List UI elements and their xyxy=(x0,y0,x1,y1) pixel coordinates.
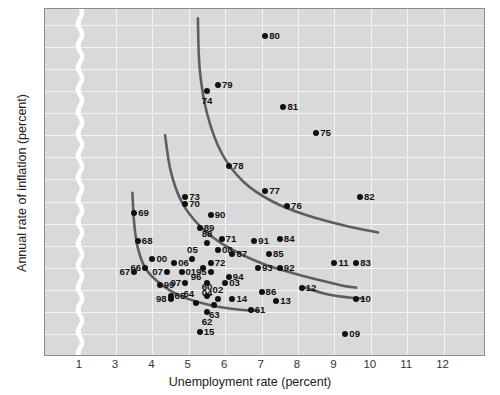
data-point-label: 79 xyxy=(222,80,233,90)
data-point-label: 88 xyxy=(202,230,213,240)
data-point xyxy=(208,260,214,266)
data-point-label: 83 xyxy=(360,258,371,268)
data-point xyxy=(262,188,268,194)
data-point-label: 02 xyxy=(213,285,224,295)
data-point-label: 85 xyxy=(273,249,284,259)
data-point xyxy=(208,212,214,218)
data-point xyxy=(357,194,363,200)
data-point-label: 76 xyxy=(291,201,302,211)
x-tick-label: 6 xyxy=(204,359,244,371)
x-tick-label: 12 xyxy=(423,359,463,371)
data-point-label: 03 xyxy=(229,278,240,288)
data-point-label: 14 xyxy=(236,294,247,304)
data-point xyxy=(219,236,225,242)
data-point-label: 09 xyxy=(349,329,360,339)
data-point xyxy=(215,296,221,302)
y-axis-title: Annual rate of inflation (percent) xyxy=(15,13,29,353)
data-point-label: 87 xyxy=(236,249,247,259)
data-point xyxy=(204,309,210,315)
data-point xyxy=(299,285,305,291)
data-point-label: 11 xyxy=(338,258,348,268)
data-point-label: 70 xyxy=(189,199,200,209)
x-tick-label: 8 xyxy=(277,359,317,371)
x-tick-label: 3 xyxy=(95,359,135,371)
data-point-label: 97 xyxy=(170,278,181,288)
data-point-label: 00 xyxy=(156,254,167,264)
data-point-label: 82 xyxy=(364,192,375,202)
data-point-label: 68 xyxy=(142,236,153,246)
plot-area: 8079748175787782767370699089687191848808… xyxy=(44,8,485,356)
x-tick-label: 7 xyxy=(241,359,281,371)
data-point-label: 95 xyxy=(196,267,207,277)
data-point xyxy=(284,203,290,209)
data-point-label: 67 xyxy=(120,267,131,277)
data-point-label: 93 xyxy=(262,263,273,273)
data-point-label: 64 xyxy=(183,289,194,299)
curve-phillips-curve-1970s xyxy=(198,18,378,232)
data-point xyxy=(255,265,261,271)
x-tick-label: 11 xyxy=(386,359,426,371)
data-point-label: 61 xyxy=(255,305,266,315)
data-point xyxy=(197,329,203,335)
data-point-label: 05 xyxy=(187,245,198,255)
data-point-label: 77 xyxy=(269,186,280,196)
data-point-label: 60 xyxy=(202,283,213,293)
chart-root: 8079748175787782767370699089687191848808… xyxy=(0,0,500,395)
data-point xyxy=(248,307,254,313)
data-point-label: 74 xyxy=(202,96,213,106)
data-point-label: 69 xyxy=(138,208,149,218)
data-point-label: 15 xyxy=(204,327,215,337)
data-point-label: 80 xyxy=(269,31,280,41)
data-point xyxy=(182,201,188,207)
data-point xyxy=(215,247,221,253)
data-point-label: 01 xyxy=(186,267,197,277)
data-point xyxy=(353,296,359,302)
x-axis-title: Unemployment rate (percent) xyxy=(0,375,500,389)
data-point xyxy=(142,265,148,271)
data-point-label: 75 xyxy=(320,128,331,138)
data-point xyxy=(215,82,221,88)
data-point-label: 81 xyxy=(287,102,298,112)
x-tick-label: 1 xyxy=(59,359,99,371)
data-point-label: 12 xyxy=(306,283,317,293)
data-point-label: 71 xyxy=(226,234,237,244)
data-point xyxy=(277,265,283,271)
data-point xyxy=(179,269,185,275)
data-point-label: 13 xyxy=(280,296,291,306)
curve-phillips-curve-mid xyxy=(165,135,356,287)
data-point-label: 91 xyxy=(258,236,269,246)
data-point-label: 10 xyxy=(360,294,371,304)
data-point-label: 86 xyxy=(266,287,277,297)
data-point xyxy=(277,236,283,242)
data-point-label: 90 xyxy=(215,210,226,220)
data-point-label: 07 xyxy=(152,267,163,277)
x-tick-label: 9 xyxy=(313,359,353,371)
data-point-label: 98 xyxy=(156,294,167,304)
data-point xyxy=(259,289,265,295)
data-point xyxy=(131,210,137,216)
data-point-label: 84 xyxy=(284,234,295,244)
data-point-label: 92 xyxy=(284,263,295,273)
x-tick-label: 10 xyxy=(350,359,390,371)
data-point xyxy=(208,269,214,275)
data-point-label: 72 xyxy=(215,258,226,268)
x-tick-label: 4 xyxy=(131,359,171,371)
data-point-label: 78 xyxy=(233,161,244,171)
x-tick-label: 5 xyxy=(168,359,208,371)
data-point xyxy=(273,298,279,304)
